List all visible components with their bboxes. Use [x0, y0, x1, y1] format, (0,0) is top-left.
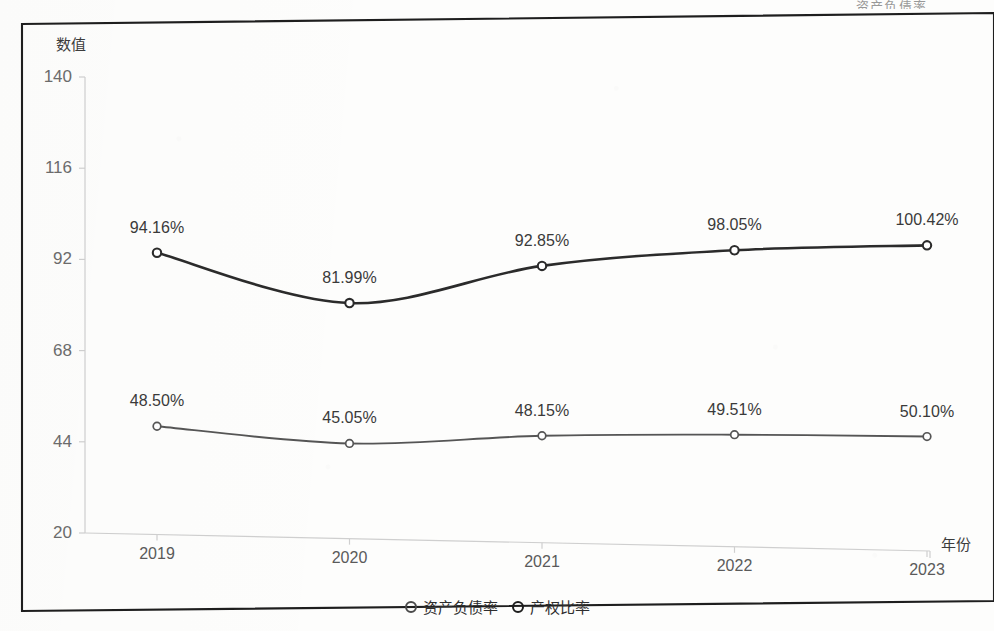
legend-label: 资产负债率	[423, 596, 498, 617]
y-tick-label: 44	[26, 432, 72, 452]
legend-item-0[interactable]: 资产负债率	[405, 596, 498, 617]
cropped-header-text: 资产负债率	[856, 0, 994, 9]
line-chart: 数值 年份 20446892116140 2019202020212022202…	[0, 0, 994, 631]
y-tick-label: 92	[26, 249, 72, 269]
legend-circle-icon	[512, 601, 524, 613]
legend-label: 产权比率	[530, 596, 590, 617]
y-axis-title: 数值	[56, 33, 86, 54]
y-tick-label: 140	[26, 67, 72, 87]
y-tick-label: 20	[26, 523, 72, 543]
data-point-label: 45.05%	[322, 409, 376, 427]
x-tick-label: 2023	[909, 561, 945, 579]
data-point-label: 92.85%	[515, 232, 569, 250]
x-tick-label: 2022	[717, 557, 753, 575]
y-tick-label: 116	[26, 158, 72, 178]
chart-legend: 资产负债率 产权比率	[0, 596, 994, 617]
data-point-label: 98.05%	[707, 216, 761, 234]
data-point-label: 48.50%	[130, 392, 184, 410]
data-point-label: 100.42%	[895, 211, 958, 229]
data-point-label: 50.10%	[900, 403, 954, 421]
legend-item-1[interactable]: 产权比率	[512, 596, 590, 617]
x-tick-label: 2020	[332, 549, 368, 567]
data-point-label: 48.15%	[515, 402, 569, 420]
legend-circle-icon	[405, 601, 417, 613]
y-tick-label: 68	[26, 341, 72, 361]
data-point-label: 94.16%	[130, 219, 184, 237]
x-tick-label: 2021	[524, 553, 560, 571]
x-tick-label: 2019	[139, 545, 175, 563]
x-axis-title: 年份	[941, 533, 971, 554]
data-point-label: 49.51%	[707, 401, 761, 419]
plot-area	[0, 0, 994, 631]
data-point-label: 81.99%	[322, 269, 376, 287]
